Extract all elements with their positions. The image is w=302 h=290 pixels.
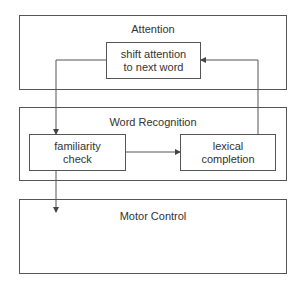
arrow-lexical-to-shift xyxy=(201,60,258,134)
arrow-shift-to-familiarity xyxy=(56,60,106,134)
connector-arrows xyxy=(0,0,302,290)
